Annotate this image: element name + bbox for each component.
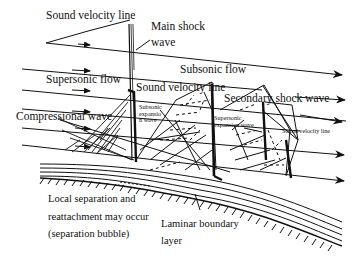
label-main-shock: Main shock [151,21,205,33]
label-sound-velocity-line-top: Sound velocity line [46,10,135,22]
secondary-shock-wave [212,84,214,176]
label-supersonic-expansion-line2: expansion wave [214,122,254,129]
label-sound-velocity-line-mid: Sound velocity line [136,82,225,94]
label-subsonic-expansion-line3: n wave [139,117,162,124]
label-laminar-layer: layer [161,236,182,247]
label-supersonic-expansion-wave: Supersonic expansion wave [214,115,254,128]
subsonic-expansion-region [136,82,216,170]
label-compressional-wave: Compressional wave [16,111,112,123]
label-subsonic-flow: Subsonic flow [180,64,246,76]
label-main-shock-wave: wave [151,37,175,49]
label-laminar-boundary: Laminar boundary [161,219,239,230]
label-secondary-shock-wave: Secondary shock wave [224,93,329,105]
shock-boundary-layer-diagram: Sound velocity line Main shock wave Subs… [0,0,359,262]
label-subsonic-expansion-wave: Subsonic expansio n wave [139,104,162,124]
sound-velocity-arc [46,20,130,43]
label-supersonic-flow: Supersonic flow [46,74,121,86]
laminar-leader [195,194,200,210]
label-local-separation-3: (separation bubble) [48,229,129,240]
label-local-separation-1: Local separation and [48,194,135,205]
label-sound-velocity-line-right: Sound velocity line [282,128,330,135]
label-local-separation-2: reattachment may occur [48,212,149,223]
